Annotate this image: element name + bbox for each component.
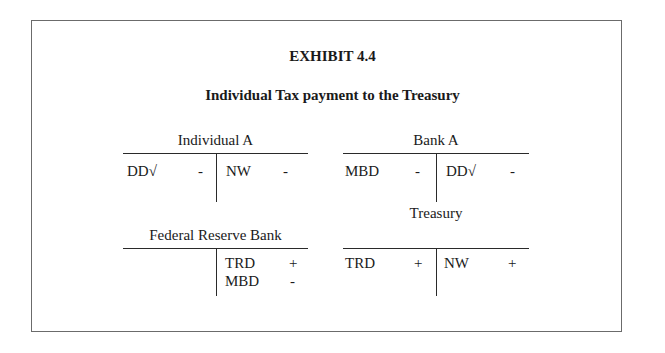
account-title: Federal Reserve Bank xyxy=(123,227,308,244)
left-sign: - xyxy=(415,163,420,180)
right-item: NW xyxy=(444,255,469,272)
t-account-vline xyxy=(216,153,217,202)
right-item: DD√ xyxy=(446,163,476,180)
right-sign: - xyxy=(510,163,515,180)
account-title: Treasury xyxy=(343,205,529,222)
left-sign: + xyxy=(414,255,422,272)
t-account-vline xyxy=(216,248,217,296)
t-account-vline xyxy=(436,248,437,296)
right-item: MBD xyxy=(225,273,259,290)
exhibit-subtitle: Individual Tax payment to the Treasury xyxy=(0,87,665,104)
account-title: Individual A xyxy=(123,132,308,149)
exhibit-frame xyxy=(31,20,622,332)
right-sign: - xyxy=(290,273,295,290)
account-title: Bank A xyxy=(343,132,529,149)
left-item: TRD xyxy=(345,255,375,272)
left-item: MBD xyxy=(345,163,379,180)
right-sign: + xyxy=(508,255,516,272)
exhibit-number: EXHIBIT 4.4 xyxy=(0,48,665,65)
left-sign: - xyxy=(198,163,203,180)
t-account-vline xyxy=(436,153,437,202)
right-sign: - xyxy=(283,163,288,180)
right-item: NW xyxy=(226,163,251,180)
right-sign: + xyxy=(289,255,297,272)
left-item: DD√ xyxy=(127,163,157,180)
right-item: TRD xyxy=(225,255,255,272)
